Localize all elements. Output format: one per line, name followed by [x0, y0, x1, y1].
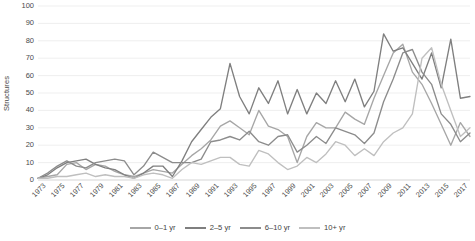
legend-item-label: 0–1 yr — [155, 224, 176, 232]
series-line-1 — [38, 34, 470, 178]
legend-item[interactable]: 10+ yr — [299, 224, 345, 232]
y-tick-label: 80 — [26, 37, 34, 45]
x-axis-tick-labels: 1973197519771979198119831985198719891991… — [38, 182, 470, 216]
line-chart: Structures 1009080706050403020100 197319… — [0, 0, 475, 241]
x-tick-label: 1989 — [184, 182, 201, 199]
x-tick-label: 1981 — [107, 182, 124, 199]
y-tick-label: 40 — [26, 107, 34, 115]
legend-item-label: 6–10 yr — [265, 224, 290, 232]
x-tick-label: 2013 — [415, 182, 432, 199]
x-tick-label: 2009 — [376, 182, 393, 199]
y-tick-label: 10 — [26, 159, 34, 167]
plot-svg — [38, 6, 470, 180]
y-tick-label: 70 — [26, 54, 34, 62]
series-line-3 — [38, 48, 470, 179]
y-tick-label: 30 — [26, 124, 34, 132]
x-tick-label: 1983 — [127, 182, 144, 199]
x-tick-label: 1993 — [223, 182, 240, 199]
legend-swatch-icon — [130, 227, 151, 229]
x-tick-label: 2003 — [319, 182, 336, 199]
chart-legend: 0–1 yr2–5 yr6–10 yr10+ yr — [0, 219, 475, 237]
x-tick-label: 2001 — [299, 182, 316, 199]
y-axis-tick-labels: 1009080706050403020100 — [12, 0, 36, 186]
y-tick-label: 50 — [26, 89, 34, 97]
x-tick-label: 1979 — [88, 182, 105, 199]
gridlines — [38, 6, 470, 180]
x-tick-label: 1991 — [203, 182, 220, 199]
x-tick-label: 1999 — [280, 182, 297, 199]
x-tick-label: 2017 — [453, 182, 470, 199]
legend-item-label: 10+ yr — [324, 224, 345, 232]
y-tick-label: 0 — [30, 176, 34, 184]
legend-swatch-icon — [240, 227, 261, 229]
legend-swatch-icon — [299, 227, 320, 229]
legend-swatch-icon — [185, 227, 206, 229]
x-tick-label: 2011 — [396, 182, 412, 198]
legend-item[interactable]: 2–5 yr — [185, 224, 231, 232]
x-tick-label: 1997 — [261, 182, 278, 199]
y-tick-label: 100 — [21, 2, 34, 10]
y-tick-label: 20 — [26, 141, 34, 149]
legend-item[interactable]: 6–10 yr — [240, 224, 290, 232]
x-tick-label: 2005 — [338, 182, 355, 199]
x-tick-label: 1995 — [242, 182, 259, 199]
x-tick-label: 1985 — [146, 182, 163, 199]
y-tick-label: 60 — [26, 72, 34, 80]
plot-area — [38, 6, 470, 180]
x-tick-label: 1977 — [69, 182, 86, 199]
x-tick-label: 1987 — [165, 182, 182, 199]
y-tick-label: 90 — [26, 20, 34, 28]
x-tick-label: 1975 — [50, 182, 67, 199]
x-tick-label: 2015 — [434, 182, 451, 199]
legend-item-label: 2–5 yr — [210, 224, 231, 232]
x-tick-label: 2007 — [357, 182, 374, 199]
y-axis-title-label: Structures — [3, 75, 12, 110]
legend-item[interactable]: 0–1 yr — [130, 224, 176, 232]
